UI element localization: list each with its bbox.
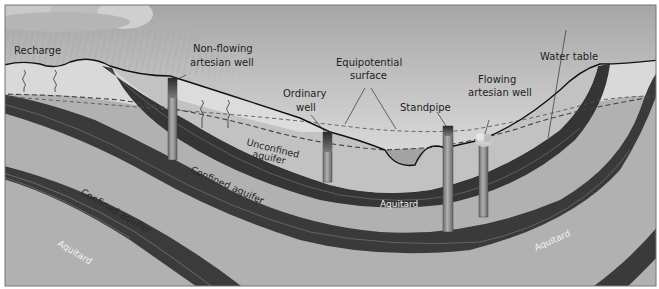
label-water-table: Water table [540, 51, 598, 62]
label-flowing-2: artesian well [468, 87, 532, 98]
well-ordinary [323, 132, 332, 182]
label-aquitard-center: Aquitard [380, 199, 418, 209]
label-ordinary-1: Ordinary [283, 88, 327, 99]
well-non-flowing [168, 78, 177, 160]
label-non-flowing-2: artesian well [190, 57, 254, 68]
label-equipotential-1: Equipotential [336, 57, 402, 68]
aquifer-diagram: Recharge Non-flowing artesian well Equip… [0, 0, 659, 289]
label-standpipe: Standpipe [400, 102, 451, 113]
well-standpipe [443, 126, 453, 232]
water-spout-icon [475, 133, 493, 147]
label-non-flowing-1: Non-flowing [193, 43, 253, 54]
diagram-canvas: Recharge Non-flowing artesian well Equip… [0, 0, 659, 289]
label-equipotential-2: surface [350, 70, 387, 81]
label-recharge: Recharge [14, 45, 61, 56]
label-ordinary-2: well [296, 102, 316, 113]
label-flowing-1: Flowing [478, 74, 516, 85]
